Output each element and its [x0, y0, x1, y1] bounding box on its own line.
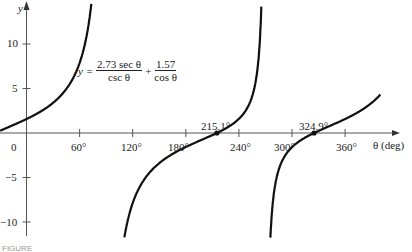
x-tick-label-120: 120°: [121, 142, 142, 153]
x-axis-arrow-icon: [392, 130, 400, 136]
x-axis-label: θ (deg): [373, 140, 404, 151]
fraction-1: 2.73 sec θ csc θ: [96, 58, 142, 83]
y-axis-label: y: [18, 3, 23, 14]
fraction-2: 1.57 cos θ: [154, 58, 177, 83]
figure-caption: FIGURE: [2, 244, 32, 252]
fraction-1-numerator: 2.73 sec θ: [96, 58, 142, 71]
root-label-2: 324.9°: [299, 121, 328, 132]
root-label-1: 215.1°: [201, 121, 230, 132]
x-tick-label-180: 180°: [168, 142, 189, 153]
fraction-2-numerator: 1.57: [155, 58, 176, 71]
y-axis-arrow-icon: [24, 1, 30, 10]
x-tick-label-360: 360°: [336, 142, 357, 153]
x-tick-label-0: 0: [11, 142, 17, 153]
equation-lhs: y =: [78, 65, 93, 77]
fraction-2-denominator: cos θ: [154, 71, 177, 83]
x-tick-label-240: 240°: [230, 142, 251, 153]
equation-plus: +: [145, 65, 151, 77]
fraction-1-denominator: csc θ: [108, 71, 130, 83]
equation-annotation: y = 2.73 sec θ csc θ + 1.57 cos θ: [78, 58, 177, 83]
curve-branch-2: [124, 7, 261, 238]
y-tick-label-neg10: −10: [0, 217, 17, 228]
x-tick-label-60: 60°: [71, 142, 86, 153]
x-tick-label-300: 300°: [274, 142, 295, 153]
y-tick-label-neg5: −5: [5, 172, 17, 183]
y-tick-label-5: 5: [12, 83, 18, 94]
curve-branch-3: [270, 95, 380, 238]
y-tick-label-10: 10: [7, 38, 18, 49]
